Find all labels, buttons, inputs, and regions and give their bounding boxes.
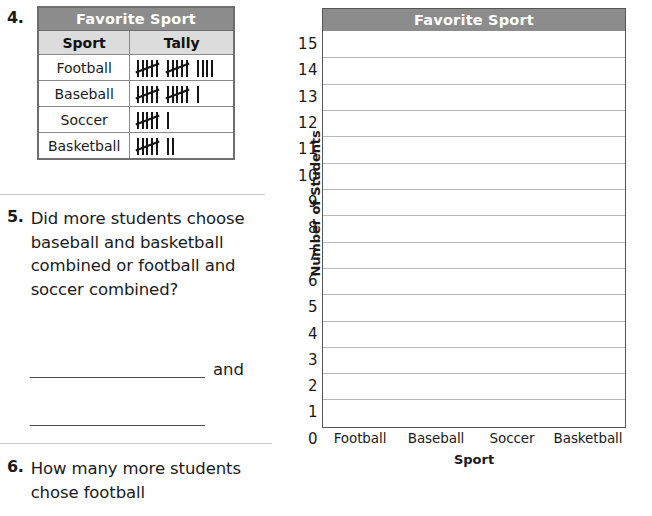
question-4-number: 4. xyxy=(7,8,24,27)
tally-table-title: Favorite Sport xyxy=(38,7,234,31)
chart-gridline xyxy=(323,321,625,322)
y-axis-tick-label: 7 xyxy=(292,248,318,263)
table-row: Baseball xyxy=(38,81,234,107)
answer-blank-line-2[interactable] xyxy=(30,408,205,426)
y-axis-tick-label: 6 xyxy=(292,274,318,289)
tally-marks-baseball xyxy=(137,86,199,103)
tally-row-sport: Soccer xyxy=(38,107,130,133)
question-5-answer-area: and xyxy=(30,360,280,426)
question-6-text: How many more students chose football xyxy=(31,457,276,504)
y-axis-tick-label: 2 xyxy=(292,379,318,394)
y-axis-tick-label: 3 xyxy=(292,353,318,368)
x-axis-tick-label: Soccer xyxy=(474,430,550,446)
answer-blank-line-1[interactable] xyxy=(30,360,205,378)
table-row: Football xyxy=(38,55,234,81)
x-axis-tick-label: Basketball xyxy=(550,430,626,446)
chart-gridline xyxy=(323,136,625,137)
chart-gridline xyxy=(323,373,625,374)
y-axis-tick-label: 1 xyxy=(292,405,318,420)
y-axis-tick-label: 13 xyxy=(292,90,318,105)
question-6-block: 6. How many more students chose football xyxy=(7,457,282,504)
tally-row-marks xyxy=(130,55,234,81)
table-row: Soccer xyxy=(38,107,234,133)
chart-gridline xyxy=(323,347,625,348)
y-axis-tick-label: 15 xyxy=(292,37,318,52)
y-axis-tick-label: 8 xyxy=(292,221,318,236)
section-divider xyxy=(0,194,265,195)
chart-gridline xyxy=(323,57,625,58)
chart-gridline xyxy=(323,268,625,269)
chart-gridline xyxy=(323,294,625,295)
tally-row-sport: Football xyxy=(38,55,130,81)
worksheet-left-column: 4. Favorite Sport Sport Tally Football B… xyxy=(0,0,278,516)
table-row: Basketball xyxy=(38,133,234,160)
y-axis-tick-label: 4 xyxy=(292,327,318,342)
section-divider xyxy=(0,443,272,444)
chart-gridline xyxy=(323,163,625,164)
question-6-number: 6. xyxy=(7,457,24,476)
chart-title: Favorite Sport xyxy=(323,9,625,31)
chart-gridlines xyxy=(323,31,625,427)
answer-conjunction: and xyxy=(213,361,244,378)
y-axis-tick-label: 14 xyxy=(292,63,318,78)
tally-table-header-tally: Tally xyxy=(130,31,234,55)
chart-gridline xyxy=(323,84,625,85)
x-axis-tick-label: Football xyxy=(322,430,398,446)
tally-row-sport: Baseball xyxy=(38,81,130,107)
chart-gridline xyxy=(323,215,625,216)
tally-table-header-sport: Sport xyxy=(38,31,130,55)
tally-row-marks xyxy=(130,107,234,133)
x-axis-tick-label: Baseball xyxy=(398,430,474,446)
y-axis-tick-label: 12 xyxy=(292,116,318,131)
favorite-sport-bar-chart: Number of Students 151413121110987654321… xyxy=(278,0,652,516)
chart-gridline xyxy=(323,242,625,243)
favorite-sport-tally-table: Favorite Sport Sport Tally Football Base… xyxy=(37,6,235,160)
y-axis-tick-label: 0 xyxy=(292,432,318,447)
x-axis-title: Sport xyxy=(322,452,626,467)
y-axis-tick-label: 9 xyxy=(292,195,318,210)
chart-gridline xyxy=(323,189,625,190)
question-5-number: 5. xyxy=(7,207,24,226)
tally-marks-football xyxy=(137,60,213,77)
tally-row-marks xyxy=(130,81,234,107)
y-axis-tick-label: 10 xyxy=(292,169,318,184)
y-axis-tick-label: 11 xyxy=(292,142,318,157)
tally-marks-basketball xyxy=(137,138,174,155)
chart-gridline xyxy=(323,399,625,400)
tally-row-sport: Basketball xyxy=(38,133,130,160)
question-5-text: Did more students choose baseball and ba… xyxy=(31,207,249,301)
tally-row-marks xyxy=(130,133,234,160)
y-axis-tick-labels: 1514131211109876543210 xyxy=(292,22,318,428)
tally-marks-soccer xyxy=(137,112,169,129)
x-axis-category-labels: FootballBaseballSoccerBasketball xyxy=(322,430,626,446)
chart-gridline xyxy=(323,110,625,111)
question-5-block: 5. Did more students choose baseball and… xyxy=(7,207,269,301)
y-axis-tick-label: 5 xyxy=(292,300,318,315)
chart-plot-area: Favorite Sport xyxy=(322,8,626,428)
